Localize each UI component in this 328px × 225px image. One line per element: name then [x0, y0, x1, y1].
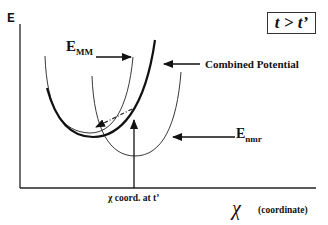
emm-label-sub: MM: [76, 47, 93, 57]
emm-label-main: E: [66, 38, 76, 54]
time-condition-box: t > t’: [267, 12, 316, 34]
enmr-label-main: E: [236, 126, 245, 141]
enmr-label-sub: nmr: [245, 134, 262, 144]
chi-coord-label: χ coord. at t’: [108, 193, 159, 203]
combined-curve: [47, 40, 155, 137]
x-axis-symbol: χ: [232, 197, 241, 220]
emm-label: EMM: [66, 38, 93, 57]
combined-potential-label: Combined Potential: [205, 58, 299, 70]
emm-curve: [45, 56, 133, 133]
y-axis-label: E: [7, 11, 15, 26]
enmr-label: Enmr: [236, 126, 262, 144]
x-axis-caption: (coordinate): [258, 205, 308, 215]
enmr-curve: [92, 72, 181, 156]
